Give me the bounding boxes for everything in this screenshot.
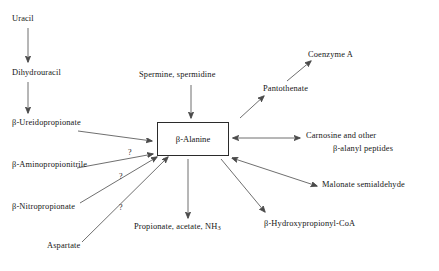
uncertainty-mark-2: ? xyxy=(119,172,123,181)
node-nitropropionate: β-Nitropropionate xyxy=(12,202,75,213)
arrow-ureidopropionate-to-alanine xyxy=(78,131,152,141)
propionate-subscript: 3 xyxy=(217,224,220,231)
node-malonate-semialdehyde: Malonate semialdehyde xyxy=(322,180,405,191)
node-ureidopropionate: β-Ureidopropionate xyxy=(12,118,81,129)
arrow-alanine-to-pantothenate xyxy=(240,96,264,118)
node-aspartate: Aspartate xyxy=(47,241,80,252)
node-hydroxypropionyl-coa: β-Hydroxypropionyl-CoA xyxy=(264,219,355,230)
node-carnosine-line2: β-alanyl peptides xyxy=(333,144,393,155)
arrow-pantothenate-to-coenzyme-a xyxy=(287,61,311,81)
node-aminopropionitrile: β-Aminopropionitrile xyxy=(12,160,87,171)
center-node-label: β-Alanine xyxy=(176,134,210,144)
node-uracil: Uracil xyxy=(12,14,34,25)
arrow-alanine-malonate xyxy=(232,158,317,186)
node-pantothenate: Pantothenate xyxy=(263,84,308,95)
node-coenzyme-a: Coenzyme A xyxy=(308,50,353,61)
center-node-alanine[interactable]: β-Alanine xyxy=(157,122,229,156)
node-dihydrouracil: Dihydrouracil xyxy=(12,68,61,79)
uncertainty-mark-1: ? xyxy=(128,148,132,157)
uncertainty-mark-3: ? xyxy=(119,203,123,212)
node-propionate-acetate-ammonia: Propionate, acetate, NH3 xyxy=(134,222,221,234)
node-spermine-spermidine: Spermine, spermidine xyxy=(139,70,216,81)
node-carnosine-line1: Carnosine and other xyxy=(306,131,376,142)
propionate-text: Propionate, acetate, NH xyxy=(134,222,217,231)
